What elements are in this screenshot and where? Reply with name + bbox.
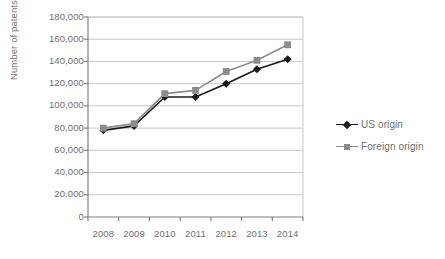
data-point-foreign-origin — [284, 41, 291, 48]
legend-label: US origin — [361, 119, 403, 130]
x-axis-tick-label: 2010 — [149, 228, 181, 239]
data-point-foreign-origin — [254, 57, 261, 64]
x-axis-tick-label: 2008 — [87, 228, 119, 239]
legend-item-foreign-origin[interactable]: Foreign origin — [336, 138, 442, 155]
data-point-foreign-origin — [131, 120, 138, 127]
data-point-us-origin — [253, 65, 261, 73]
x-axis-tick-label: 2011 — [180, 228, 212, 239]
x-axis-tick-label: 2014 — [272, 228, 304, 239]
data-point-foreign-origin — [161, 90, 168, 97]
legend-item-us-origin[interactable]: US origin — [336, 116, 442, 133]
data-point-foreign-origin — [223, 68, 230, 75]
data-point-us-origin — [222, 80, 230, 88]
x-axis-tick-label: 2013 — [241, 228, 273, 239]
patents-granted-line-chart: Number of patents granted 020,00040,0006… — [0, 0, 445, 259]
data-point-us-origin — [284, 55, 292, 63]
legend-label: Foreign origin — [361, 141, 424, 152]
data-point-us-origin — [192, 93, 200, 101]
x-axis-tick-labels: 2008200920102011201220132014 — [0, 225, 445, 245]
data-point-foreign-origin — [100, 125, 107, 132]
legend-square-icon — [336, 141, 358, 153]
data-point-foreign-origin — [192, 87, 199, 94]
x-axis-tick-label: 2009 — [118, 228, 150, 239]
chart-legend: US originForeign origin — [336, 116, 442, 160]
legend-diamond-icon — [336, 119, 358, 131]
x-axis-tick-label: 2012 — [210, 228, 242, 239]
